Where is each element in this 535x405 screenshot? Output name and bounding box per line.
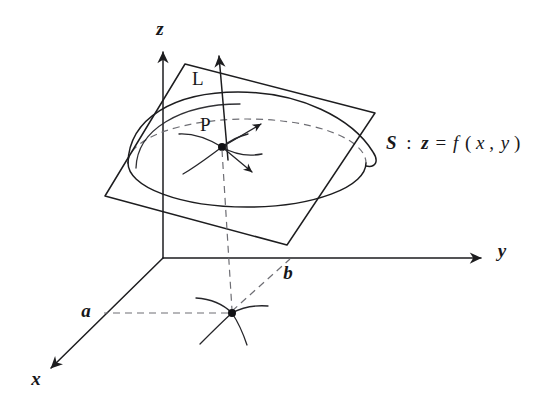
surface-eq-rhs: f <box>453 132 461 153</box>
param-a-label: a <box>81 300 91 321</box>
figure-root: z y x L <box>0 0 535 405</box>
point-p-label: P <box>200 114 211 135</box>
z-axis-label: z <box>155 18 164 39</box>
axis-group: z y x <box>30 18 507 389</box>
ab-arc-lower-left <box>200 313 232 344</box>
tangent-vector-up <box>222 124 261 147</box>
dashed-b-line <box>232 259 290 311</box>
surface-eq-equals: = <box>436 132 447 153</box>
point-p-group: P <box>179 114 262 174</box>
surface-eq-comma: , <box>489 132 494 153</box>
svg-text:S : z: S : z = f ( x , y ) <box>386 132 520 154</box>
y-axis-label: y <box>496 240 507 261</box>
point-ab-group: a b <box>81 150 293 345</box>
surface-equation-group: S : z = f ( x , y ) <box>386 132 520 154</box>
ab-arc-upper-left <box>196 298 232 313</box>
tangent-vector-down <box>222 147 252 172</box>
surface-group <box>128 92 376 207</box>
point-p-dot <box>218 143 226 151</box>
surface-eq-open-paren: ( <box>465 132 471 154</box>
normal-line-label: L <box>192 68 204 89</box>
tangent-plane-diagram: z y x L <box>0 0 535 405</box>
surface-eq-close-paren: ) <box>514 132 520 154</box>
point-ab-dot <box>228 309 236 317</box>
surface-eq-lhs: z <box>420 132 429 153</box>
surface-eq-name: S <box>386 132 397 153</box>
x-axis-label: x <box>30 368 41 389</box>
surface-eq-var1: x <box>475 132 485 153</box>
param-b-label: b <box>283 262 293 283</box>
surface-eq-var2: y <box>499 132 510 153</box>
surface-eq-colon: : <box>406 132 411 153</box>
ab-arc-lower-right <box>232 313 247 345</box>
